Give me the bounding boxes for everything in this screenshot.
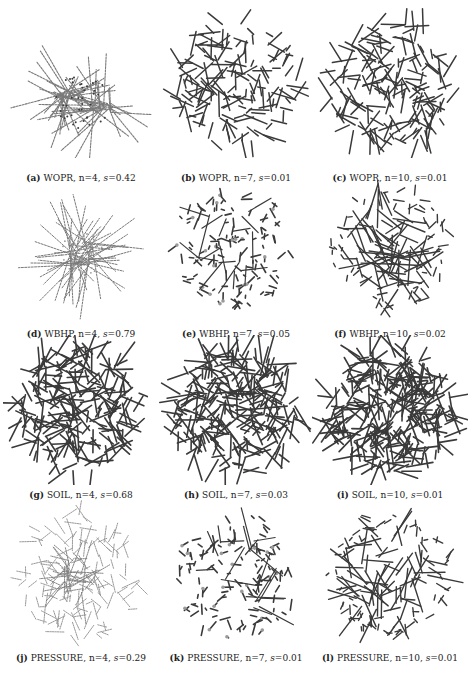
caption-metric: SOIL xyxy=(47,490,70,500)
graph-plot xyxy=(158,8,314,158)
caption-label: (k) xyxy=(170,653,185,663)
caption-n: n=7 xyxy=(245,653,264,663)
caption-label: (l) xyxy=(322,653,334,663)
caption-s-value: =0.68 xyxy=(105,490,133,500)
caption: (g) SOIL, n=4, s=0.68 xyxy=(3,490,159,500)
graph-plot xyxy=(312,500,468,650)
graph-plot xyxy=(312,8,468,158)
graph-plot xyxy=(312,172,468,322)
caption-n: n=7 xyxy=(231,490,250,500)
caption-n: n=4 xyxy=(89,653,108,663)
caption-label: (i) xyxy=(337,490,349,500)
caption-s-value: =0.03 xyxy=(260,490,288,500)
caption-n: n=10 xyxy=(380,490,405,500)
caption: (h) SOIL, n=7, s=0.03 xyxy=(158,490,314,500)
graph-plot xyxy=(158,172,314,322)
graph-plot xyxy=(158,335,314,485)
caption-metric: PRESSURE xyxy=(31,653,84,663)
caption-s-value: =0.01 xyxy=(416,490,444,500)
caption-label: (h) xyxy=(184,490,199,500)
caption: (i) SOIL, n=10, s=0.01 xyxy=(312,490,468,500)
caption-n: n=4 xyxy=(76,490,95,500)
graph-plot xyxy=(158,500,314,650)
caption-metric: PRESSURE xyxy=(337,653,390,663)
graph-plot xyxy=(3,8,159,158)
caption: (k) PRESSURE, n=7, s=0.01 xyxy=(158,653,314,663)
caption-label: (j) xyxy=(16,653,28,663)
caption-s-value: =0.29 xyxy=(118,653,146,663)
graph-plot xyxy=(3,500,159,650)
graph-plot xyxy=(3,172,159,322)
caption-metric: PRESSURE xyxy=(187,653,240,663)
caption-n: n=10 xyxy=(395,653,420,663)
caption: (l) PRESSURE, n=10, s=0.01 xyxy=(312,653,468,663)
caption-metric: SOIL xyxy=(202,490,225,500)
graph-plot xyxy=(3,335,159,485)
caption-s-value: =0.01 xyxy=(275,653,303,663)
caption-s-value: =0.01 xyxy=(430,653,458,663)
caption-metric: SOIL xyxy=(352,490,375,500)
caption: (j) PRESSURE, n=4, s=0.29 xyxy=(3,653,159,663)
caption-label: (g) xyxy=(29,490,44,500)
figure-grid: (a) WOPR, n=4, s=0.42 (b) WOPR, n=7, s=0… xyxy=(0,0,470,685)
graph-plot xyxy=(312,335,468,485)
